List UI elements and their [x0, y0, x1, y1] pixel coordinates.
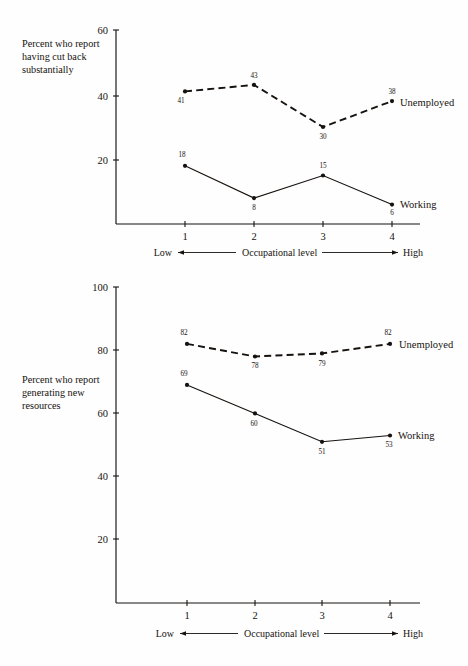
top-series-unemployed-line [185, 85, 392, 127]
top-xtick-2-label: 2 [251, 231, 256, 242]
bottom-series-working-point-2 [253, 411, 257, 415]
bottom-working-value-2: 60 [250, 420, 258, 428]
bottom-series-working-point-3 [320, 440, 324, 444]
top-axis-left-arrow-icon [178, 250, 236, 255]
bottom-series-unemployed-point-3 [320, 351, 324, 355]
bottom-series-label-unemployed: Unemployed [399, 339, 454, 350]
top-series-working-point-4 [390, 203, 394, 207]
bottom-unemployed-value-2: 78 [251, 362, 259, 370]
bottom-working-value-3: 51 [318, 448, 326, 456]
top-series-unemployed-point-2 [252, 83, 256, 87]
bottom-ytick-60-label: 60 [98, 408, 109, 419]
top-axis-right-arrow-icon [322, 250, 398, 255]
top-y-axis-title-line2: having cut back [22, 51, 87, 62]
top-ytick-20-label: 20 [98, 155, 109, 166]
bottom-unemployed-value-3: 79 [318, 360, 326, 368]
top-xtick-4-label: 4 [389, 231, 395, 242]
top-series-unemployed-point-4 [390, 99, 394, 103]
bottom-series-unemployed-point-1 [185, 342, 189, 346]
top-xtick-3-label: 3 [320, 231, 325, 242]
figure-two-panel-line-charts: 60 40 20 Percent who report having cut b… [0, 0, 468, 666]
bottom-working-value-1: 69 [180, 370, 188, 378]
top-series-unemployed-point-1 [183, 89, 187, 93]
bottom-ytick-80-label: 80 [98, 345, 109, 356]
bottom-series-working-line [187, 385, 390, 442]
chart-percent-generating-new-resources: 100 80 60 40 20 Percent who report gener… [0, 266, 468, 666]
top-series-unemployed-point-3 [321, 125, 325, 129]
top-xtick-1-label: 1 [182, 231, 187, 242]
top-axis-caption-low: Low [154, 247, 173, 258]
bottom-xtick-1-label: 1 [184, 610, 189, 621]
top-unemployed-value-2: 43 [250, 72, 258, 80]
bottom-series-unemployed-point-4 [388, 342, 392, 346]
bottom-axis-right-arrow-icon [324, 631, 398, 636]
bottom-xtick-4-label: 4 [387, 610, 393, 621]
top-series-label-unemployed: Unemployed [400, 97, 455, 108]
top-working-value-4: 6 [390, 209, 394, 217]
bottom-unemployed-value-1: 82 [180, 329, 188, 337]
top-ytick-40-label: 40 [98, 91, 109, 102]
top-y-axis-title-line3: substantially [22, 64, 74, 75]
bottom-working-value-4: 53 [385, 441, 393, 449]
top-axis-caption-high: High [403, 247, 423, 258]
bottom-series-unemployed-point-2 [253, 354, 257, 358]
top-ytick-60-label: 60 [98, 25, 109, 36]
top-working-value-1: 18 [178, 151, 186, 159]
bottom-axis-left-arrow-icon [180, 631, 238, 636]
bottom-xtick-2-label: 2 [252, 610, 257, 621]
top-working-value-2: 8 [252, 204, 256, 212]
top-series-working-point-3 [321, 173, 325, 177]
bottom-unemployed-value-4: 82 [384, 329, 392, 337]
bottom-series-label-working: Working [398, 430, 435, 441]
bottom-axis-caption-low: Low [156, 628, 175, 639]
bottom-series-working-point-4 [388, 433, 392, 437]
top-series-working-point-2 [252, 196, 256, 200]
bottom-ytick-40-label: 40 [98, 471, 109, 482]
bottom-xtick-3-label: 3 [319, 610, 324, 621]
bottom-y-axis-title-line3: resources [22, 400, 61, 411]
bottom-axis-caption-high: High [403, 628, 423, 639]
bottom-axis-title: Occupational level [244, 628, 319, 639]
bottom-y-axis-title-line2: generating new [22, 387, 85, 398]
top-unemployed-value-1: 41 [177, 97, 185, 105]
chart-percent-cut-back-substantially: 60 40 20 Percent who report having cut b… [0, 0, 468, 262]
bottom-ytick-100-label: 100 [92, 282, 108, 293]
bottom-series-unemployed-line [187, 344, 390, 357]
bottom-series-working-point-1 [185, 383, 189, 387]
bottom-ytick-20-label: 20 [98, 534, 109, 545]
top-series-working-line [185, 166, 392, 205]
top-y-axis-title-line1: Percent who report [22, 38, 100, 49]
top-unemployed-value-3: 30 [319, 133, 327, 141]
top-unemployed-value-4: 38 [388, 88, 396, 96]
bottom-y-axis-title-line1: Percent who report [22, 374, 100, 385]
top-axis-title: Occupational level [242, 247, 317, 258]
top-series-label-working: Working [400, 199, 437, 210]
top-series-working-point-1 [183, 164, 187, 168]
top-working-value-3: 15 [319, 162, 327, 170]
